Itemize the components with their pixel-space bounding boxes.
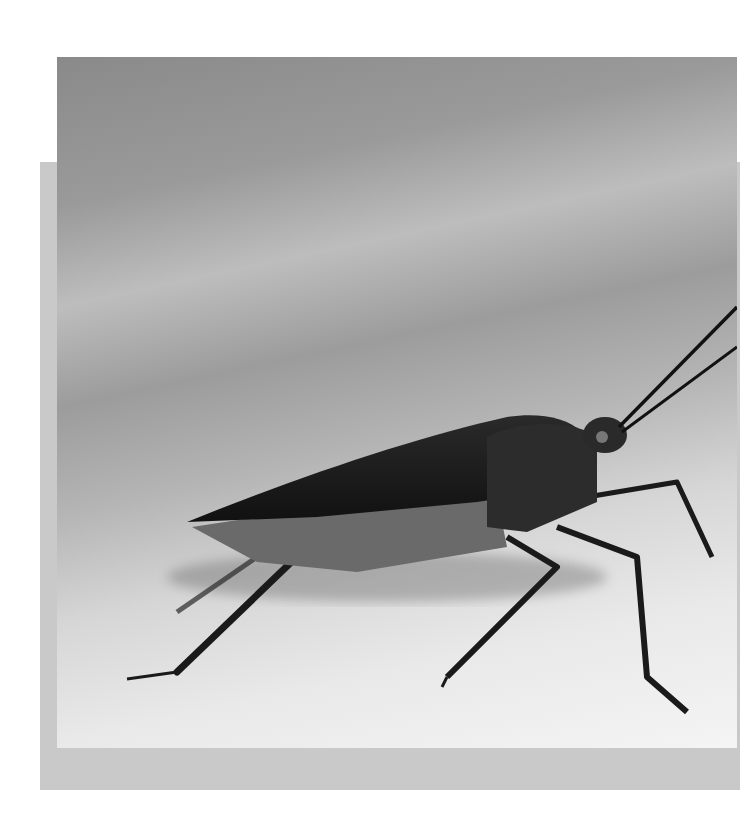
insect-photo [57,57,737,748]
insect-illustration [57,57,737,748]
